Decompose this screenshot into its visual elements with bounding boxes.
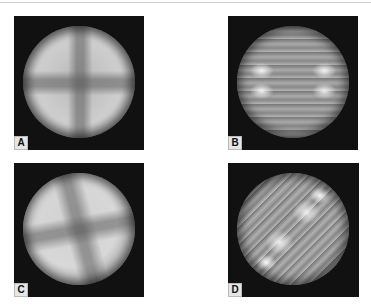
disc-image-d: [237, 173, 349, 285]
panel-c: C: [14, 163, 144, 297]
disc-image-a: [23, 26, 135, 138]
panel-b: B: [228, 16, 358, 150]
panel-label-b: B: [228, 136, 242, 150]
disc-image-c: [23, 173, 135, 285]
panel-d: D: [228, 163, 359, 297]
panel-label-a: A: [14, 136, 28, 150]
top-divider: [0, 2, 371, 3]
panel-label-c: C: [14, 283, 28, 297]
panel-a: A: [14, 16, 144, 150]
disc-image-b: [237, 26, 349, 138]
panel-label-d: D: [228, 283, 242, 297]
